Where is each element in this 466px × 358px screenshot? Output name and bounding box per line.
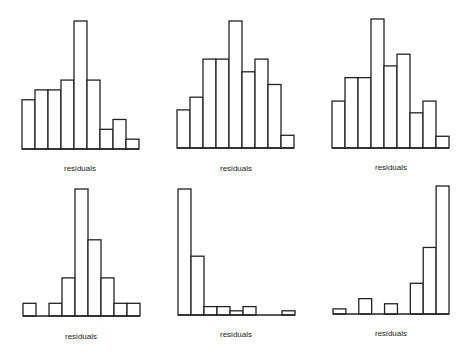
- histogram-bar: [113, 119, 126, 149]
- histogram-bar: [101, 278, 114, 316]
- histogram-bar: [62, 278, 75, 316]
- histogram-bar: [74, 21, 87, 149]
- histogram-bar: [216, 59, 229, 148]
- histogram-panel-4: residuals: [23, 189, 140, 341]
- histogram-bar: [204, 307, 217, 315]
- x-axis-label: residuals: [375, 163, 407, 172]
- histogram-bar: [423, 247, 436, 314]
- histogram-bar: [127, 303, 140, 316]
- histogram-bar: [384, 66, 397, 148]
- histogram-bar: [23, 303, 36, 316]
- histogram-bar: [217, 307, 230, 315]
- histogram-bar: [333, 309, 346, 314]
- histogram-bar: [243, 307, 256, 315]
- histogram-bar: [114, 303, 127, 316]
- histogram-bar: [385, 304, 398, 314]
- x-axis-label: residuals: [64, 164, 96, 173]
- histogram-bar: [332, 101, 345, 148]
- histogram-bar: [359, 299, 372, 314]
- histogram-bar: [371, 19, 384, 148]
- histogram-bar: [255, 59, 268, 148]
- histogram-bar: [397, 54, 410, 148]
- x-axis-label: residuals: [220, 330, 252, 339]
- histogram-bar: [268, 85, 281, 149]
- histogram-panel-1: residuals: [22, 21, 139, 173]
- histogram-panel-3: residuals: [332, 19, 449, 172]
- histogram-bar: [436, 136, 449, 148]
- histogram-grid: residuals residuals residuals residuals …: [0, 0, 466, 358]
- histogram-bar: [61, 80, 74, 149]
- histogram-bar: [22, 100, 35, 149]
- histogram-bar: [35, 90, 48, 149]
- histogram-bar: [203, 59, 216, 148]
- histogram-bar: [358, 78, 371, 148]
- histogram-bar: [242, 72, 255, 148]
- histogram-bar: [100, 129, 113, 149]
- x-axis-label: residuals: [220, 164, 252, 173]
- histogram-bar: [423, 101, 436, 148]
- histogram-bar: [88, 240, 101, 316]
- histogram-bar: [191, 256, 204, 315]
- histogram-bar: [48, 90, 61, 149]
- histogram-bar: [410, 283, 423, 314]
- histogram-bar: [345, 78, 358, 148]
- x-axis-label: residuals: [375, 329, 407, 338]
- histogram-bar: [49, 303, 62, 316]
- histogram-bar: [75, 189, 88, 316]
- histogram-bar: [190, 97, 203, 148]
- histogram-panel-5: residuals: [178, 189, 295, 339]
- histogram-bar: [436, 186, 449, 314]
- histogram-bar: [178, 189, 191, 315]
- histogram-panel-2: residuals: [177, 21, 294, 173]
- histogram-bar: [229, 21, 242, 148]
- histogram-bar: [281, 135, 294, 148]
- histogram-panel-6: residuals: [333, 186, 449, 338]
- histogram-bar: [410, 113, 423, 148]
- histogram-bar: [126, 139, 139, 149]
- histogram-bar: [177, 110, 190, 148]
- histogram-bar: [87, 80, 100, 149]
- x-axis-label: residuals: [65, 332, 97, 341]
